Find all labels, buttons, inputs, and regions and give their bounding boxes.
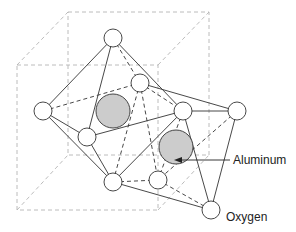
aluminum-label: Aluminum	[233, 153, 286, 167]
aluminum-atom	[159, 130, 193, 164]
oxygen-atom	[202, 201, 220, 219]
visible-bonds	[43, 38, 237, 210]
aluminum-oxide-structure-diagram: Aluminum Oxygen	[0, 0, 296, 232]
oxygen-atom	[131, 74, 149, 92]
oxygen-atom	[78, 128, 96, 146]
oxygen-label: Oxygen	[226, 210, 267, 224]
oxygen-atom	[149, 171, 167, 189]
oxygen-atom	[174, 102, 192, 120]
cube-edge	[17, 155, 68, 210]
oxygen-atom	[104, 173, 122, 191]
cube-edge	[17, 12, 68, 65]
oxygen-atom	[228, 102, 246, 120]
cube-edge	[158, 12, 209, 65]
oxygen-atom	[104, 29, 122, 47]
aluminum-atom	[96, 94, 130, 128]
hidden-bonds	[43, 38, 237, 210]
oxygen-atom	[34, 102, 52, 120]
